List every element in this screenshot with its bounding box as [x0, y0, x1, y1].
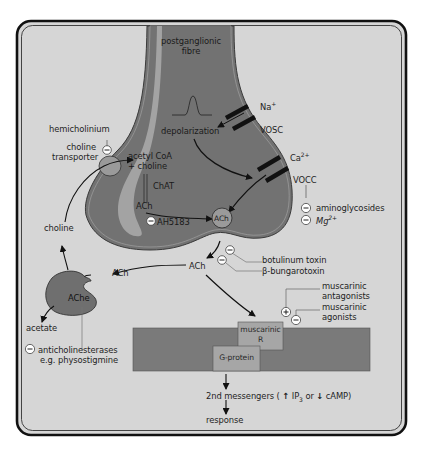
vosc-label: VOSC — [260, 125, 283, 135]
agonists-line2: agonists — [322, 312, 367, 322]
fibre-label: postganglionic fibre — [160, 36, 222, 56]
aminoglycosides-label: aminoglycosides — [316, 203, 384, 213]
acetyl-coa-line2: + choline — [128, 161, 172, 171]
muscarinic-antagonists-label: muscarinic antagonists — [322, 281, 370, 301]
choline-label: choline — [44, 223, 73, 233]
fibre-label-line2: fibre — [160, 46, 222, 56]
ca-charge: 2+ — [301, 151, 310, 158]
mg-charge: 2+ — [328, 214, 337, 221]
muscarinic-agonists-label: muscarinic agonists — [322, 302, 367, 322]
second-messengers-label: 2nd messengers ( ↑ IP3 or ↓ cAMP) — [206, 391, 351, 401]
ip3-subscript: 3 — [299, 396, 303, 403]
ach-cleft-label: ACh — [189, 261, 205, 271]
antagonists-line1: muscarinic — [322, 281, 370, 291]
bungarotoxin-label: β-bungarotoxin — [262, 266, 324, 276]
ach-synth-label: ACh — [136, 201, 152, 211]
acetyl-coa-label: acetyl CoA + choline — [128, 151, 172, 171]
na-label: Na+ — [260, 102, 276, 112]
ach-vesicle-label: ACh — [214, 214, 229, 224]
g-protein-label: G-protein — [213, 353, 260, 363]
ca-label: Ca2+ — [290, 153, 309, 163]
na-charge: + — [271, 100, 276, 107]
choline-transporter-icon — [99, 156, 121, 176]
agonists-line1: muscarinic — [322, 302, 367, 312]
hemicholinium-label: hemicholinium — [49, 124, 109, 134]
anticholinesterases-line2: e.g. physostigmine — [38, 355, 118, 365]
down-arrow-icon: ↓ — [316, 391, 323, 401]
ach-to-enzyme-label: ACh — [112, 268, 128, 278]
mg-ion: Mg — [316, 216, 328, 226]
choline-transporter-label: choline transporter — [52, 142, 96, 162]
vocc-label: VOCC — [293, 175, 316, 185]
antagonists-line2: antagonists — [322, 291, 370, 301]
fibre-label-line1: postganglionic — [160, 36, 222, 46]
receptor-line2: R — [238, 335, 283, 345]
or-text: or — [305, 391, 313, 401]
acetyl-coa-line1: acetyl CoA — [128, 151, 172, 161]
ip3: IP — [292, 391, 299, 401]
choline-transporter-line1: choline — [52, 142, 96, 152]
diagram-root: postganglionic fibre depolarization Na+ … — [0, 0, 422, 449]
chat-label: ChAT — [153, 181, 174, 191]
response-label: response — [206, 415, 243, 425]
na-ion: Na — [260, 102, 271, 112]
acetate-label: acetate — [26, 323, 57, 333]
muscarinic-r-label: muscarinic R — [238, 325, 283, 345]
receptor-line1: muscarinic — [238, 325, 283, 335]
ah5183-label: AH5183 — [157, 217, 190, 227]
ache-label: AChe — [68, 293, 90, 303]
mg-label: Mg2+ — [316, 216, 337, 226]
up-arrow-icon: ↑ — [282, 391, 289, 401]
anticholinesterases-line1: anticholinesterases — [38, 345, 118, 355]
ca-ion: Ca — [290, 153, 301, 163]
anticholinesterases-label: anticholinesterases e.g. physostigmine — [38, 345, 118, 365]
depolarization-label: depolarization — [161, 126, 219, 136]
botulinum-label: botulinum toxin — [262, 255, 326, 265]
choline-transporter-line2: transporter — [52, 152, 96, 162]
second-messengers-prefix: 2nd messengers ( — [206, 391, 280, 401]
camp: cAMP) — [326, 391, 351, 401]
